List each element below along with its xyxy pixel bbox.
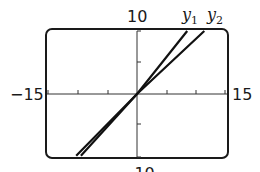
xmin-label: −15 bbox=[10, 85, 44, 104]
xmax-label: 15 bbox=[232, 85, 252, 104]
line-y2 bbox=[81, 31, 204, 156]
graph-svg: −15 15 10 −10 y 1 y 2 bbox=[0, 0, 260, 172]
svg-text:2: 2 bbox=[216, 14, 223, 27]
svg-text:1: 1 bbox=[191, 14, 198, 27]
graph-window: −15 15 10 −10 y 1 y 2 bbox=[0, 0, 260, 172]
legend-y2: y 2 bbox=[206, 5, 223, 27]
ymin-label: −10 bbox=[121, 164, 155, 172]
ymax-label: 10 bbox=[127, 7, 147, 26]
line-y1 bbox=[76, 31, 187, 156]
legend-y1: y 1 bbox=[181, 5, 198, 27]
